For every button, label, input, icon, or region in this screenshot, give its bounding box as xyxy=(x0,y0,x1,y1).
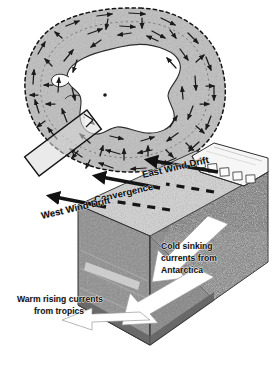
warm-rising-line-1: Warm rising currents xyxy=(17,294,103,304)
antarctic-circulation-figure: East Wind Drift Convergence West Wind Dr… xyxy=(0,0,276,381)
cold-sinking-line-1: Cold sinking xyxy=(161,241,213,251)
antarctic-peninsula xyxy=(52,74,69,87)
cold-sinking-line-2: currents from xyxy=(161,253,217,263)
figure-container: East Wind Drift Convergence West Wind Dr… xyxy=(0,0,276,381)
warm-rising-line-2: from tropics xyxy=(34,306,84,316)
cold-sinking-line-3: Antarctica xyxy=(161,265,203,275)
south-pole-dot xyxy=(103,93,107,97)
